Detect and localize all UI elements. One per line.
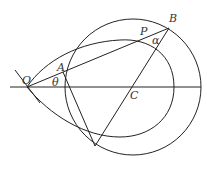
geometry-diagram: O A θ P α B C xyxy=(0,0,207,170)
label-b: B xyxy=(168,12,177,25)
label-p: P xyxy=(139,25,148,38)
label-a: A xyxy=(56,61,65,74)
line-ob xyxy=(27,28,169,87)
label-theta: θ xyxy=(52,76,59,89)
line-a-bottom xyxy=(63,72,95,146)
label-alpha: α xyxy=(152,34,160,47)
label-o: O xyxy=(22,74,31,87)
label-c: C xyxy=(130,89,139,102)
